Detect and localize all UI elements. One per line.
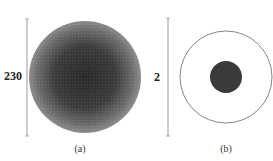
center-disk xyxy=(210,61,242,93)
scale-label-a: 230 xyxy=(4,69,22,83)
caption-b: (b) xyxy=(220,143,232,155)
caption-a: (a) xyxy=(74,143,85,155)
figure: 230 (a) 2 (b) xyxy=(0,0,273,161)
ring-pattern-circle xyxy=(29,21,141,133)
panel-b: 2 (b) xyxy=(154,18,272,155)
scale-label-b: 2 xyxy=(154,70,160,84)
panel-a: 230 (a) xyxy=(4,19,141,155)
